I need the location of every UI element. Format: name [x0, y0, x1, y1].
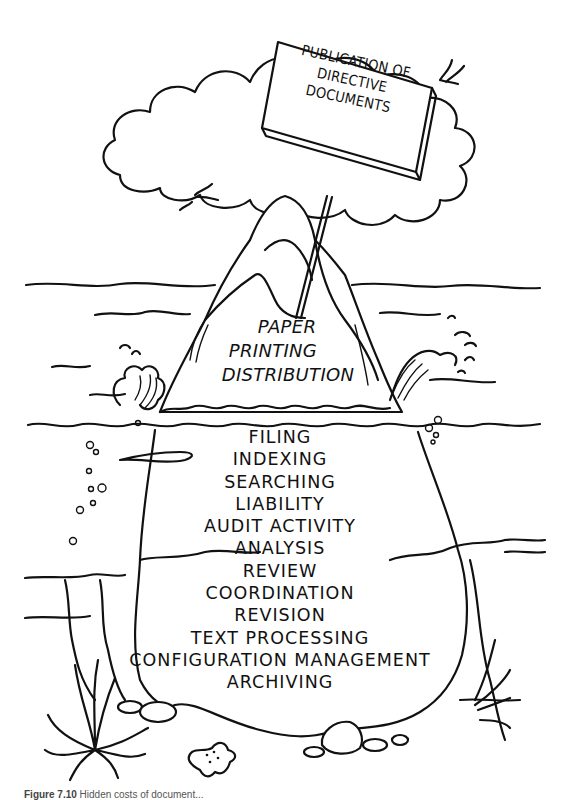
hidden-cost-item: ARCHIVING [100, 671, 460, 693]
visible-cost: PRINTING [156, 339, 390, 363]
caption-text: Hidden costs of document... [80, 789, 204, 800]
hidden-cost-item: REVISION [100, 604, 460, 626]
hidden-cost-item: SEARCHING [100, 471, 460, 493]
hidden-cost-item: COORDINATION [100, 582, 460, 604]
visible-cost: DISTRIBUTION [186, 363, 390, 387]
hidden-cost-item: REVIEW [100, 560, 460, 582]
starfish-icon [189, 743, 235, 776]
hidden-costs-list: FILING INDEXING SEARCHING LIABILITY AUDI… [100, 426, 460, 694]
visible-costs-label: PAPER PRINTING DISTRIBUTION [190, 315, 390, 387]
hidden-cost-item: AUDIT ACTIVITY [100, 515, 460, 537]
caption-label: Figure 7.10 [24, 789, 77, 800]
hidden-cost-item: FILING [100, 426, 460, 448]
hidden-cost-item: ANALYSIS [100, 537, 460, 559]
hidden-cost-item: CONFIGURATION MANAGEMENT [100, 649, 460, 671]
visible-cost: PAPER [184, 315, 390, 339]
hidden-cost-item: INDEXING [100, 448, 460, 470]
hidden-cost-item: LIABILITY [100, 493, 460, 515]
rock-icon [118, 701, 408, 757]
figure-caption: Figure 7.10 Hidden costs of document... [24, 789, 204, 800]
hidden-cost-item: TEXT PROCESSING [100, 627, 460, 649]
